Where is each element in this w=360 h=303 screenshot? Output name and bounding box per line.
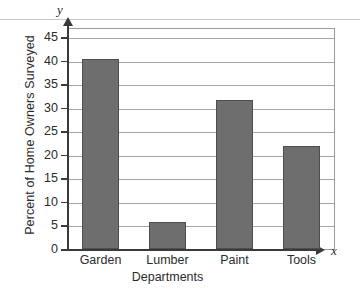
y-axis-tick bbox=[61, 61, 67, 63]
gridline bbox=[67, 38, 334, 39]
x-axis-letter: x bbox=[331, 243, 337, 259]
y-axis-tick-label: 45 bbox=[18, 30, 58, 44]
y-axis-tick-label: 30 bbox=[18, 101, 58, 115]
y-axis-tick-label: 0 bbox=[18, 242, 58, 256]
y-axis-tick bbox=[61, 84, 67, 86]
x-axis-label-tools: Tools bbox=[287, 253, 316, 267]
bar-chart: Percent of Home Owners Surveyed y x 0510… bbox=[0, 0, 360, 303]
x-axis-title: Departments bbox=[0, 270, 335, 284]
x-axis-label-garden: Garden bbox=[80, 253, 122, 267]
y-axis-tick-label: 35 bbox=[18, 77, 58, 91]
y-axis-tick bbox=[61, 202, 67, 204]
x-axis-label-paint: Paint bbox=[220, 253, 249, 267]
y-axis-tick-label: 15 bbox=[18, 171, 58, 185]
y-axis-tick bbox=[61, 37, 67, 39]
y-axis-tick bbox=[61, 249, 67, 251]
bar-tools bbox=[283, 146, 320, 249]
y-axis-letter: y bbox=[57, 2, 63, 18]
y-axis-tick bbox=[61, 225, 67, 227]
y-axis-tick bbox=[61, 178, 67, 180]
y-axis-tick-label: 25 bbox=[18, 124, 58, 138]
bar-garden bbox=[82, 59, 119, 249]
y-axis-tick bbox=[61, 155, 67, 157]
y-axis-tick-label: 10 bbox=[18, 195, 58, 209]
y-axis-tick bbox=[61, 131, 67, 133]
y-axis-line bbox=[67, 22, 69, 250]
y-axis-arrow-icon bbox=[63, 17, 73, 26]
bar-lumber bbox=[149, 222, 186, 249]
y-axis-tick bbox=[61, 108, 67, 110]
x-axis-line bbox=[67, 249, 317, 251]
y-axis-tick-label: 20 bbox=[18, 148, 58, 162]
y-axis-tick-label: 5 bbox=[18, 218, 58, 232]
y-axis-tick-label: 40 bbox=[18, 54, 58, 68]
bar-paint bbox=[216, 100, 253, 249]
x-axis-label-lumber: Lumber bbox=[146, 253, 188, 267]
